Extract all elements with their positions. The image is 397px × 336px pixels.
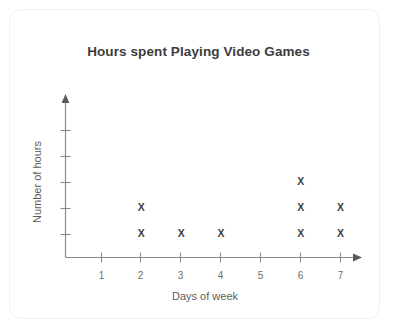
x-axis-title: Days of week [172,290,239,302]
chart-screenshot: Hours spent Playing Video Games Number o… [0,0,397,336]
x-tick-label: 1 [99,270,105,281]
dot-plot-figure: Number of hours 1 2 3 4 5 6 7 [0,0,397,336]
x-axis-tick-labels: 1 2 3 4 5 6 7 [99,270,344,281]
data-mark-x: X [297,201,304,213]
x-tick-label: 4 [218,270,224,281]
y-axis: Number of hours [31,94,71,258]
data-mark-x: X [178,227,185,239]
data-mark-x: X [297,175,304,187]
x-axis: 1 2 3 4 5 6 7 Days of week [66,253,363,303]
x-tick-label: 7 [338,270,344,281]
y-axis-arrow-icon [62,94,70,103]
data-mark-x: X [138,227,145,239]
data-mark-x: X [297,227,304,239]
y-axis-title: Number of hours [31,141,43,223]
x-tick-label: 2 [138,270,144,281]
x-axis-arrow-icon [353,253,362,261]
x-tick-label: 5 [258,270,264,281]
x-tick-label: 6 [298,270,304,281]
data-marks-layer: XXXXXXXXX [138,175,344,239]
data-mark-x: X [138,201,145,213]
x-tick-label: 3 [178,270,184,281]
data-mark-x: X [337,227,344,239]
data-mark-x: X [217,227,224,239]
data-mark-x: X [337,201,344,213]
